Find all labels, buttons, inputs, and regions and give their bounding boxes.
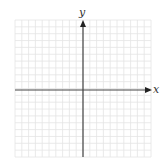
- x-axis-label: x: [153, 84, 159, 95]
- y-axis-arrow-icon: [80, 20, 86, 27]
- coordinate-plane: [0, 0, 165, 162]
- y-axis-label: y: [79, 7, 85, 18]
